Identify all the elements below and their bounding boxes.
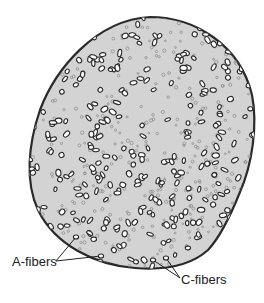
a-fiber xyxy=(32,225,40,234)
c-fiber xyxy=(239,202,242,205)
c-fiber xyxy=(251,242,254,245)
c-fiber xyxy=(220,31,223,34)
a-fiber xyxy=(104,220,109,226)
a-fiber xyxy=(244,259,251,265)
a-fiber xyxy=(57,17,64,24)
a-fiber xyxy=(173,216,178,223)
a-fiber xyxy=(215,251,222,258)
c-fiber xyxy=(253,93,256,96)
a-fiber xyxy=(237,13,245,20)
c-fiber xyxy=(258,154,260,156)
a-fiber xyxy=(87,22,95,27)
a-fiber xyxy=(24,87,28,93)
c-fiber xyxy=(36,88,38,90)
c-fiber xyxy=(33,49,35,51)
a-fiber xyxy=(193,13,198,19)
a-fiber xyxy=(57,177,63,183)
c-fiber xyxy=(70,21,73,24)
a-fiber xyxy=(131,162,137,168)
a-fiber xyxy=(196,17,203,23)
a-fiber xyxy=(74,186,82,190)
c-fiber xyxy=(97,268,100,271)
a-fiber xyxy=(73,31,77,37)
a-fiber xyxy=(186,265,193,269)
a-fiber xyxy=(139,156,144,162)
a-fiber xyxy=(182,158,186,164)
a-fiber xyxy=(203,21,209,27)
a-fiber xyxy=(238,19,246,24)
c-fiber xyxy=(64,34,66,36)
a-fiber xyxy=(214,247,220,254)
a-fiber xyxy=(246,65,255,73)
c-fiber xyxy=(50,251,52,253)
c-fiber xyxy=(27,24,30,27)
c-fiber xyxy=(71,22,73,24)
a-fiber xyxy=(23,152,28,159)
a-fiber xyxy=(182,13,190,19)
c-fiber xyxy=(252,204,255,207)
c-fiber xyxy=(27,116,29,118)
c-fiber xyxy=(72,28,74,30)
a-fiber xyxy=(53,187,57,192)
a-fiber xyxy=(221,241,227,249)
a-fiber xyxy=(41,205,48,209)
a-fiber xyxy=(89,131,94,137)
c-fiber xyxy=(28,249,31,252)
a-fiber xyxy=(50,44,54,52)
a-fiber xyxy=(246,238,255,245)
a-fiber xyxy=(29,49,34,56)
c-fiber xyxy=(237,235,239,237)
a-fiber xyxy=(186,121,190,126)
c-fiber xyxy=(45,29,48,32)
c-fiber xyxy=(249,20,252,23)
a-fiber xyxy=(244,262,250,268)
c-fiber xyxy=(25,70,28,73)
a-fiber xyxy=(219,213,227,218)
c-fiber xyxy=(30,91,33,94)
c-fiber xyxy=(27,78,29,80)
a-fiber xyxy=(33,61,38,67)
c-fiber xyxy=(257,33,259,35)
a-fiber xyxy=(170,199,175,206)
c-fiber xyxy=(53,31,55,33)
a-fiber xyxy=(221,252,229,261)
c-fiber xyxy=(230,44,232,46)
c-fiber xyxy=(214,269,217,272)
c-fiber-leader-target xyxy=(150,258,155,262)
a-fiber xyxy=(117,49,122,57)
c-fiber xyxy=(73,31,76,34)
c-fiber xyxy=(217,249,220,252)
a-fiber xyxy=(91,237,97,242)
a-fiber xyxy=(249,65,253,71)
c-fiber xyxy=(98,15,100,17)
a-fiber xyxy=(249,261,256,268)
c-fiber xyxy=(238,234,241,237)
a-fiber xyxy=(45,131,50,138)
a-fiber xyxy=(197,207,205,213)
c-fiber xyxy=(226,231,229,234)
c-fiber xyxy=(52,68,55,71)
a-fiber xyxy=(247,228,254,236)
a-fiber xyxy=(199,110,204,116)
c-fiber xyxy=(34,38,37,41)
label-a-fibers: A-fibers xyxy=(12,254,57,269)
c-fiber xyxy=(254,66,256,68)
a-fiber xyxy=(186,186,191,191)
c-fiber xyxy=(34,212,36,214)
c-fiber xyxy=(247,260,249,262)
a-fiber xyxy=(35,45,41,51)
a-fiber xyxy=(221,243,226,249)
c-fiber xyxy=(40,231,43,234)
a-fiber xyxy=(24,59,31,65)
c-fiber xyxy=(247,195,249,197)
a-fiber xyxy=(180,52,187,57)
a-fiber xyxy=(185,246,191,250)
a-fiber xyxy=(250,35,256,41)
c-fiber xyxy=(255,129,258,132)
a-fiber xyxy=(50,71,55,77)
c-fiber xyxy=(29,236,32,239)
a-fiber xyxy=(172,154,176,160)
c-fiber xyxy=(120,268,122,270)
c-fiber xyxy=(239,248,242,251)
a-fiber xyxy=(233,33,240,40)
